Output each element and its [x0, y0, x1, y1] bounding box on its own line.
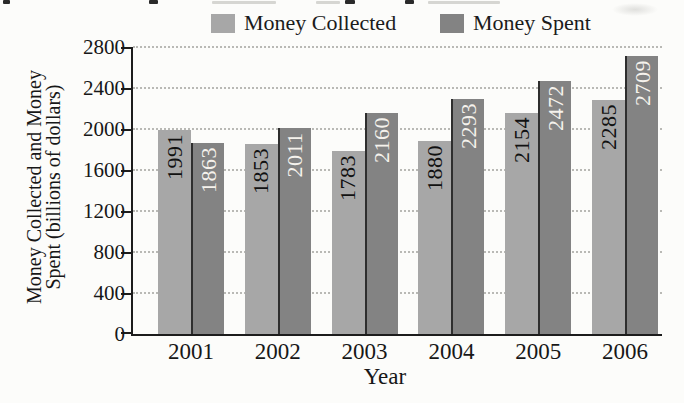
gridline-2800	[133, 46, 662, 48]
screenshot-root: Money Collected Money Spent Money Collec…	[0, 0, 684, 403]
bar-money-collected-2001: 1991	[158, 130, 191, 334]
y-tick-label-0: 0	[71, 324, 125, 345]
bar-group-2005: 21542472	[505, 81, 571, 334]
x-tick-label-2004: 2004	[411, 339, 491, 365]
money-collected-swatch-icon	[211, 14, 235, 33]
legend-label-money-collected: Money Collected	[244, 10, 396, 36]
bar-money-spent-2002: 2011	[278, 128, 311, 334]
legend-item-money-collected: Money Collected	[211, 10, 396, 36]
bar-value-label: 2285	[596, 104, 622, 150]
bar-value-label: 2472	[543, 85, 569, 131]
bar-money-collected-2006: 2285	[592, 100, 625, 334]
bar-value-label: 1853	[248, 148, 274, 194]
cropped-title-fragment	[149, 0, 158, 4]
bar-money-spent-2006: 2709	[625, 56, 658, 334]
bar-money-spent-2003: 2160	[365, 113, 398, 334]
bar-value-label: 2154	[509, 117, 535, 163]
x-tick-label-2001: 2001	[151, 339, 231, 365]
bar-value-label: 1863	[196, 147, 222, 193]
x-tick-label-2002: 2002	[238, 339, 318, 365]
cropped-title-fragment	[428, 1, 500, 4]
cropped-title-fragment	[405, 0, 414, 4]
bar-value-label: 2011	[282, 132, 308, 177]
bar-chart-plot-area: 0400800120016002000240028001991186320011…	[131, 47, 662, 336]
cropped-title-fragment	[212, 1, 276, 4]
bar-value-label: 2160	[369, 117, 395, 163]
y-tick-label-2800: 2800	[71, 37, 125, 58]
cropped-title-fragment	[316, 1, 340, 4]
bar-money-spent-2001: 1863	[191, 143, 224, 334]
bar-money-spent-2005: 2472	[538, 81, 571, 334]
bar-value-label: 1991	[162, 134, 188, 180]
bar-value-label: 2709	[630, 60, 656, 106]
bar-group-2003: 17832160	[332, 113, 398, 334]
bar-value-label: 1783	[335, 155, 361, 201]
y-tick-label-2400: 2400	[71, 78, 125, 99]
bar-money-collected-2002: 1853	[245, 144, 278, 334]
bar-money-collected-2003: 1783	[332, 151, 365, 334]
bar-value-label: 2293	[456, 103, 482, 149]
y-axis-title: Money Collected and Money Spent (billion…	[25, 51, 63, 323]
bar-value-label: 1880	[422, 145, 448, 191]
x-tick-label-2006: 2006	[585, 339, 665, 365]
x-tick-label-2005: 2005	[498, 339, 578, 365]
money-spent-swatch-icon	[440, 14, 464, 33]
y-tick-label-1200: 1200	[71, 201, 125, 222]
y-tick-label-2000: 2000	[71, 119, 125, 140]
legend-item-money-spent: Money Spent	[440, 10, 591, 36]
bar-group-2006: 22852709	[592, 56, 658, 334]
bar-money-spent-2004: 2293	[451, 99, 484, 334]
bar-group-2002: 18532011	[245, 128, 311, 334]
bar-group-2004: 18802293	[418, 99, 484, 334]
y-tick-label-800: 800	[71, 242, 125, 263]
x-axis-title: Year	[345, 364, 425, 390]
y-tick-label-400: 400	[71, 283, 125, 304]
cropped-title-fragment	[3, 0, 10, 4]
bar-money-collected-2004: 1880	[418, 141, 451, 334]
gridline-2400	[133, 87, 662, 89]
bar-group-2001: 19911863	[158, 130, 224, 334]
legend-label-money-spent: Money Spent	[473, 10, 591, 36]
bar-money-collected-2005: 2154	[505, 113, 538, 334]
y-axis-title-line-2: Spent (billions of dollars)	[44, 51, 63, 323]
x-tick-label-2003: 2003	[325, 339, 405, 365]
cropped-title-fragment	[345, 0, 355, 4]
scan-smudge	[612, 3, 658, 16]
y-tick-label-1600: 1600	[71, 160, 125, 181]
